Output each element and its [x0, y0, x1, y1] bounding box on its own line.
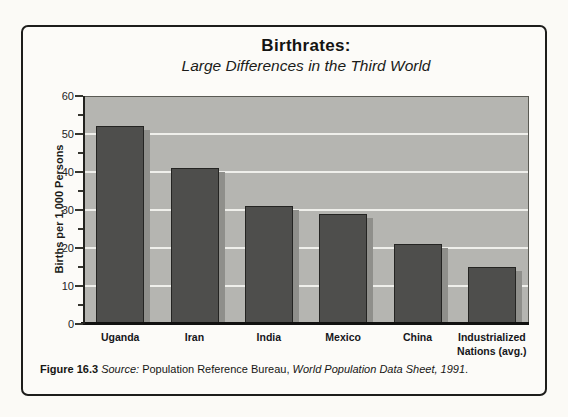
x-category-label: India	[227, 331, 311, 345]
y-major-tick	[75, 323, 83, 325]
gridline	[84, 285, 528, 287]
y-minor-tick	[78, 152, 83, 154]
x-category-label: Uganda	[78, 331, 162, 345]
caption-figure-number: Figure 16.3	[40, 363, 98, 375]
x-category-label: Industrialized Nations (avg.)	[450, 331, 534, 358]
caption-publisher: Population Reference Bureau,	[142, 363, 289, 375]
figure-page: Birthrates: Large Differences in the Thi…	[0, 0, 568, 417]
caption-work-title: World Population Data Sheet, 1991	[293, 363, 465, 375]
chart-subtitle: Large Differences in the Third World	[83, 57, 529, 75]
y-minor-tick	[78, 304, 83, 306]
gridline	[84, 133, 528, 135]
bar	[245, 206, 293, 324]
y-minor-tick	[78, 266, 83, 268]
y-major-tick	[75, 171, 83, 173]
y-tick-label: 20	[36, 241, 74, 255]
gridline	[84, 209, 528, 211]
x-category-label: Mexico	[301, 331, 385, 345]
y-major-tick	[75, 133, 83, 135]
chart-title: Birthrates:	[83, 36, 529, 56]
y-axis-line	[83, 96, 85, 324]
y-major-tick	[75, 247, 83, 249]
y-major-tick	[75, 95, 83, 97]
y-major-tick	[75, 285, 83, 287]
y-major-tick	[75, 209, 83, 211]
x-axis-line	[81, 322, 529, 325]
y-tick-label: 0	[36, 317, 74, 331]
bar	[96, 126, 144, 324]
y-minor-tick	[78, 228, 83, 230]
gridline	[84, 171, 528, 173]
figure-frame: Birthrates: Large Differences in the Thi…	[21, 25, 547, 396]
gridline	[84, 247, 528, 249]
bar	[394, 244, 442, 324]
y-tick-label: 60	[36, 89, 74, 103]
bar	[319, 214, 367, 324]
y-tick-label: 40	[36, 165, 74, 179]
bar	[171, 168, 219, 324]
caption-source-label: Source:	[101, 363, 139, 375]
caption-period: .	[465, 363, 468, 375]
bar	[468, 267, 516, 324]
x-category-label: China	[375, 331, 459, 345]
y-tick-label: 30	[36, 203, 74, 217]
y-minor-tick	[78, 114, 83, 116]
y-minor-tick	[78, 190, 83, 192]
figure-caption: Figure 16.3 Source: Population Reference…	[40, 363, 540, 375]
y-tick-label: 10	[36, 279, 74, 293]
y-tick-label: 50	[36, 127, 74, 141]
x-category-label: Iran	[152, 331, 236, 345]
